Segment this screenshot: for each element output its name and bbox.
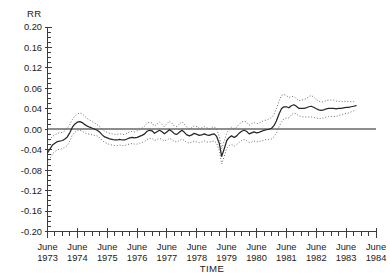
y-axis-tick-label: -0.04 (21, 145, 42, 155)
x-axis-tick-label-month: June (336, 242, 356, 252)
x-axis-title: TIME (200, 263, 225, 274)
x-axis-tick-label-year: 1981 (276, 253, 297, 263)
y-axis-tick-label: 0.04 (24, 104, 42, 114)
chart-figure: RR 0.200.160.120.060.040.00-0.04-0.08-0.… (0, 0, 390, 276)
y-axis-tick-label: -0.20 (21, 227, 42, 237)
y-axis-tick-label: 0.20 (24, 22, 42, 32)
x-axis-tick-label-month: June (37, 242, 57, 252)
x-axis-tick-label-month: June (306, 242, 326, 252)
x-axis-tick-label-year: 1979 (216, 253, 237, 263)
x-axis-tick-label-month: June (246, 242, 266, 252)
x-axis-tick-label-year: 1984 (366, 253, 387, 263)
x-axis-tick-label-month: June (276, 242, 296, 252)
x-axis-tick-label-year: 1980 (246, 253, 267, 263)
x-axis-tick-label-year: 1973 (37, 253, 58, 263)
x-axis-tick-label-month: June (366, 242, 386, 252)
x-axis-tick-label-year: 1976 (127, 253, 148, 263)
y-axis-tick-label: 0.16 (24, 43, 42, 53)
x-axis-tick-label-year: 1983 (336, 253, 357, 263)
x-axis-tick-label-year: 1982 (306, 253, 327, 263)
x-axis-tick-label-month: June (127, 242, 147, 252)
y-axis-tick-label: 0.06 (24, 84, 42, 94)
x-axis-tick-label-month: June (97, 242, 117, 252)
x-axis-tick-label-year: 1975 (97, 253, 118, 263)
rr-time-series-chart: RR 0.200.160.120.060.040.00-0.04-0.08-0.… (0, 0, 390, 276)
y-axis-tick-label: -0.12 (21, 186, 42, 196)
x-axis-tick-label-month: June (187, 242, 207, 252)
y-axis-tick-label: -0.16 (21, 206, 42, 216)
y-axis-tick-label: -0.08 (21, 166, 42, 176)
y-axis-title: RR (27, 8, 42, 19)
x-axis-tick-label-month: June (217, 242, 237, 252)
y-axis-tick-label: 0.12 (24, 63, 42, 73)
x-axis-tick-label-month: June (157, 242, 177, 252)
x-axis-tick-label-year: 1974 (67, 253, 88, 263)
x-axis-tick-label-year: 1977 (157, 253, 178, 263)
x-axis-tick-label-year: 1978 (186, 253, 207, 263)
x-axis-tick-label-month: June (67, 242, 87, 252)
y-axis-tick-label: 0.00 (24, 125, 42, 135)
